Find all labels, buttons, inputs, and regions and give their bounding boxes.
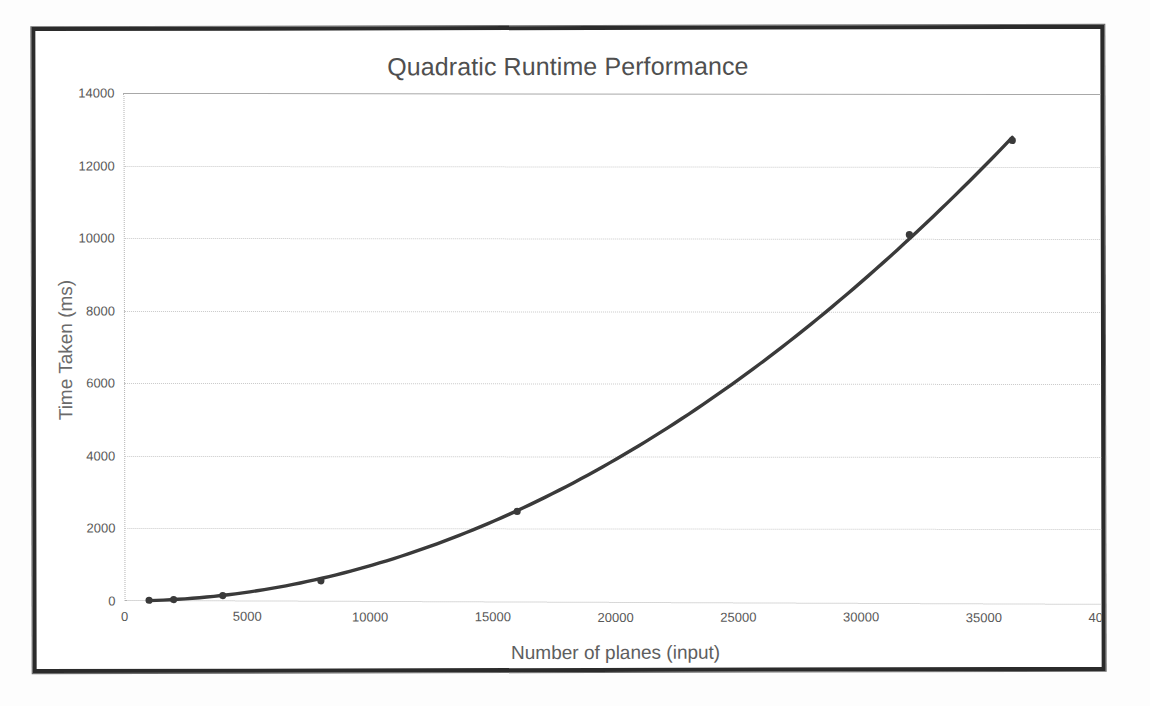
x-tick-label: 10000 [352, 609, 388, 624]
x-tick-label: 30000 [843, 610, 879, 625]
series-line [148, 137, 1013, 600]
y-tick-label: 12000 [78, 158, 114, 173]
x-tick-label: 0 [121, 609, 128, 624]
data-point-marker [514, 508, 521, 515]
x-tick-label: 20000 [597, 609, 633, 624]
chart-title: Quadratic Runtime Performance [35, 51, 1100, 82]
data-point-marker [170, 596, 177, 603]
chart-frame: Quadratic Runtime Performance Time Taken… [31, 25, 1105, 673]
y-tick-label: 10000 [79, 231, 115, 246]
y-tick-label: 0 [108, 593, 115, 608]
x-tick-label: 5000 [233, 609, 262, 624]
x-tick-label: 25000 [720, 610, 756, 625]
x-axis-line [125, 600, 1102, 605]
x-axis-title: Number of planes (input) [125, 641, 1102, 665]
data-point-marker [317, 577, 324, 584]
x-tick-label: 40000 [1088, 610, 1101, 625]
x-tick-label: 35000 [966, 610, 1002, 625]
data-point-marker [1009, 137, 1016, 144]
y-tick-label: 6000 [86, 376, 115, 391]
chart-page: Quadratic Runtime Performance Time Taken… [0, 0, 1150, 706]
y-tick-label: 2000 [86, 521, 115, 536]
y-axis-title: Time Taken (ms) [55, 280, 77, 420]
data-series [123, 91, 1101, 601]
data-point-marker [219, 592, 226, 599]
y-tick-label: 4000 [86, 448, 115, 463]
data-point-marker [906, 231, 913, 238]
y-tick-label: 8000 [86, 303, 115, 318]
x-tick-label: 15000 [475, 609, 511, 624]
y-tick-label: 14000 [78, 85, 114, 100]
plot-area: 02000400060008000100001200014000 0500010… [123, 91, 1101, 601]
data-point-marker [145, 597, 152, 604]
chart-inner: Quadratic Runtime Performance Time Taken… [35, 29, 1101, 669]
